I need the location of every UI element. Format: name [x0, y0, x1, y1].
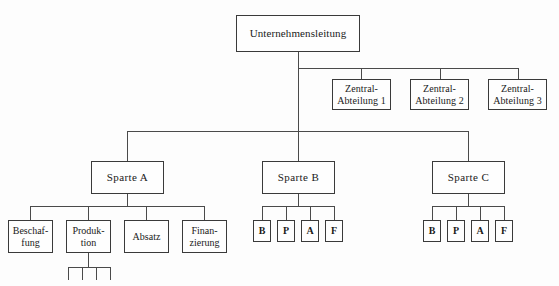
connector-staff-1	[361, 68, 362, 79]
node-label: Sparte C	[448, 171, 489, 183]
node-sparte-b-absatz[interactable]: A	[301, 220, 319, 242]
connector-c-stem	[468, 194, 469, 206]
connector-staff-bar	[298, 68, 519, 69]
node-label: Zentral- Abteilung 3	[493, 83, 542, 105]
connector-b-child-1	[262, 206, 263, 220]
node-label: A	[306, 225, 313, 236]
node-label: B	[429, 225, 436, 236]
connector-c-bar	[432, 206, 504, 207]
connector-a-stem	[127, 194, 128, 206]
connector-b-child-3	[310, 206, 311, 220]
node-zentral-abteilung-3[interactable]: Zentral- Abteilung 3	[488, 79, 547, 110]
node-label: Sparte B	[278, 171, 319, 183]
connector-produktion-stem	[88, 253, 89, 267]
node-sparte-c[interactable]: Sparte C	[432, 161, 505, 194]
connector-staff-3	[518, 68, 519, 79]
node-beschaffung[interactable]: Beschaf- fung	[8, 220, 53, 253]
node-produktion[interactable]: Produk- tion	[66, 220, 111, 253]
node-label: A	[476, 225, 483, 236]
connector-staff-2	[440, 68, 441, 79]
connector-b-child-4	[334, 206, 335, 220]
node-finanzierung[interactable]: Finan- zierung	[182, 220, 227, 253]
connector-c-child-4	[504, 206, 505, 220]
node-absatz[interactable]: Absatz	[124, 220, 169, 253]
connector-trunk-main	[298, 52, 299, 131]
connector-produktion-stub-3	[96, 267, 97, 280]
node-label: Zentral- Abteilung 2	[415, 83, 464, 105]
node-label: F	[501, 225, 507, 236]
node-label: Produk- tion	[72, 225, 104, 247]
node-label: P	[283, 225, 289, 236]
node-label: B	[259, 225, 266, 236]
node-label: Absatz	[133, 231, 161, 242]
connector-a-child-2	[88, 206, 89, 220]
connector-b-stem	[298, 194, 299, 206]
node-sparte-c-beschaffung[interactable]: B	[423, 220, 441, 242]
node-sparte-b-finanzierung[interactable]: F	[325, 220, 343, 242]
node-label: P	[453, 225, 459, 236]
connector-produktion-stub-1	[68, 267, 69, 280]
connector-c-child-2	[456, 206, 457, 220]
connector-division-b	[298, 131, 299, 161]
connector-a-child-1	[30, 206, 31, 220]
node-label: F	[331, 225, 337, 236]
node-sparte-c-produktion[interactable]: P	[447, 220, 465, 242]
connector-b-child-2	[286, 206, 287, 220]
node-sparte-c-finanzierung[interactable]: F	[495, 220, 513, 242]
connector-a-bar	[30, 206, 204, 207]
node-label: Beschaf- fung	[13, 225, 49, 247]
connector-c-child-1	[432, 206, 433, 220]
node-sparte-c-absatz[interactable]: A	[471, 220, 489, 242]
node-sparte-b[interactable]: Sparte B	[262, 161, 335, 194]
connector-c-child-3	[480, 206, 481, 220]
node-label: Unternehmensleitung	[250, 27, 347, 39]
connector-produktion-stub-4	[110, 267, 111, 280]
node-zentral-abteilung-1[interactable]: Zentral- Abteilung 1	[332, 79, 391, 110]
node-sparte-b-beschaffung[interactable]: B	[253, 220, 271, 242]
connector-b-bar	[262, 206, 334, 207]
connector-division-a	[127, 131, 128, 161]
node-zentral-abteilung-2[interactable]: Zentral- Abteilung 2	[410, 79, 469, 110]
node-label: Sparte A	[107, 171, 148, 183]
connector-a-child-4	[204, 206, 205, 220]
org-chart-diagram: Unternehmensleitung Zentral- Abteilung 1…	[0, 0, 559, 286]
node-sparte-b-produktion[interactable]: P	[277, 220, 295, 242]
node-sparte-a[interactable]: Sparte A	[91, 161, 164, 194]
connector-produktion-stub-2	[82, 267, 83, 280]
connector-produktion-bar	[68, 267, 110, 268]
node-unternehmensleitung[interactable]: Unternehmensleitung	[236, 15, 360, 52]
connector-a-child-3	[146, 206, 147, 220]
connector-division-c	[468, 131, 469, 161]
node-label: Zentral- Abteilung 1	[337, 83, 386, 105]
node-label: Finan- zierung	[190, 225, 220, 247]
